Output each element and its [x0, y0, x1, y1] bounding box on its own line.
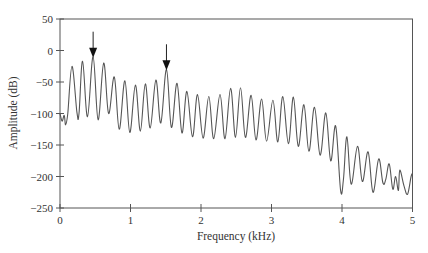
x-tick-label: 0: [57, 214, 63, 226]
y-tick-label: 50: [42, 13, 54, 25]
y-tick-label: −200: [30, 171, 53, 183]
y-tick-label: −100: [30, 108, 53, 120]
x-tick-label: 4: [339, 214, 345, 226]
y-tick-label: −150: [30, 139, 53, 151]
y-tick-label: −50: [36, 76, 54, 88]
y-tick-label: 0: [48, 45, 54, 57]
x-tick-label: 3: [269, 214, 275, 226]
x-tick-label: 5: [410, 214, 416, 226]
y-axis: 500−50−100−150−200−250: [30, 13, 64, 214]
y-tick-label: −250: [30, 202, 53, 214]
down-arrow-icon: [162, 60, 170, 70]
down-arrow-icon: [89, 48, 97, 58]
spectrum-line: [60, 57, 413, 195]
x-axis-label: Frequency (kHz): [197, 230, 275, 243]
x-tick-label: 1: [128, 214, 134, 226]
plot-frame: [60, 19, 413, 208]
spectrum-chart: 500−50−100−150−200−250 012345 Frequency …: [0, 0, 428, 253]
annotations: [89, 32, 170, 71]
x-tick-label: 2: [198, 214, 204, 226]
y-axis-label: Amplitude (dB): [7, 76, 20, 149]
x-axis: 012345: [57, 204, 416, 226]
